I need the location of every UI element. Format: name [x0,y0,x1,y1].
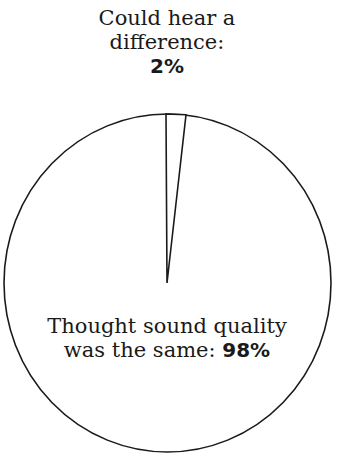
label-line: Could hear a [0,6,334,30]
label-line: difference: [0,30,334,54]
label-value: 2% [0,54,334,78]
label-line: was the same: [64,338,216,362]
label-sound-same: Thought sound quality was the same: 98% [0,314,334,362]
label-value: 98% [222,338,270,362]
label-could-hear-difference: Could hear a difference: 2% [0,6,334,78]
label-line: Thought sound quality [0,314,334,338]
